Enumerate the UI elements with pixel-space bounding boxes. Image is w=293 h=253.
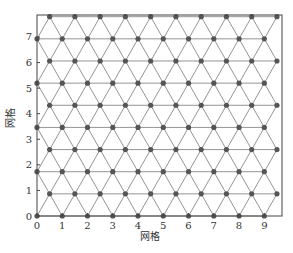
- mesh-node: [98, 147, 103, 152]
- mesh-node: [186, 125, 191, 130]
- y-tick-label: 1: [26, 185, 32, 196]
- mesh-edge: [125, 61, 138, 83]
- mesh-node: [173, 103, 178, 108]
- mesh-node: [274, 103, 279, 108]
- y-tick-label: 3: [26, 134, 32, 145]
- mesh-edge: [226, 17, 239, 39]
- mesh-edge: [75, 105, 88, 127]
- mesh-node: [211, 169, 216, 174]
- mesh-edge: [239, 105, 252, 127]
- mesh-node: [98, 103, 103, 108]
- mesh-edge: [88, 172, 101, 194]
- mesh-node: [85, 81, 90, 86]
- mesh-edge: [189, 172, 202, 194]
- mesh-node: [161, 125, 166, 130]
- mesh-edge: [151, 150, 164, 172]
- mesh-edge: [201, 105, 214, 127]
- mesh-edge: [37, 150, 50, 172]
- mesh-edge: [151, 61, 164, 83]
- y-axis-label: 网格: [4, 108, 16, 128]
- mesh-edge: [226, 172, 239, 194]
- mesh-edge: [88, 61, 101, 83]
- mesh-edge: [138, 61, 151, 83]
- mesh-node: [274, 58, 279, 63]
- mesh-edge: [37, 127, 50, 149]
- mesh-edge: [189, 39, 202, 61]
- y-tick-label: 6: [26, 57, 32, 68]
- mesh-node: [110, 81, 115, 86]
- mesh-edge: [100, 39, 113, 61]
- mesh-edge: [214, 105, 227, 127]
- mesh-edge: [176, 83, 189, 105]
- mesh-edge: [138, 83, 151, 105]
- mesh-edge: [214, 172, 227, 194]
- mesh-node: [211, 81, 216, 86]
- mesh-node: [85, 125, 90, 130]
- mesh-edge: [50, 61, 63, 83]
- mesh-edge: [239, 39, 252, 61]
- x-tick-label: 4: [135, 220, 141, 231]
- mesh-edge: [138, 105, 151, 127]
- mesh-node: [224, 103, 229, 108]
- mesh-node: [173, 58, 178, 63]
- x-tick-label: 6: [185, 220, 191, 231]
- mesh-edge: [50, 83, 63, 105]
- mesh-edge: [37, 17, 50, 39]
- mesh-edge: [214, 17, 227, 39]
- mesh-node: [47, 58, 52, 63]
- mesh-edge: [62, 39, 75, 61]
- mesh-edge: [252, 194, 265, 216]
- mesh-edge: [88, 127, 101, 149]
- mesh-node: [186, 36, 191, 41]
- mesh-edge: [100, 105, 113, 127]
- mesh-edge: [62, 172, 75, 194]
- mesh-edge: [201, 150, 214, 172]
- mesh-edge: [151, 39, 164, 61]
- mesh-node: [249, 191, 254, 196]
- mesh-edge: [113, 39, 126, 61]
- mesh-node: [123, 103, 128, 108]
- mesh-node: [224, 58, 229, 63]
- mesh-edge: [75, 17, 88, 39]
- mesh-edge: [88, 83, 101, 105]
- mesh-edge: [151, 17, 164, 39]
- mesh-edge: [100, 17, 113, 39]
- mesh-node: [186, 169, 191, 174]
- mesh-edge: [151, 172, 164, 194]
- mesh-edge: [88, 17, 101, 39]
- mesh-edge: [50, 17, 63, 39]
- mesh-edge: [100, 150, 113, 172]
- mesh-node: [199, 191, 204, 196]
- mesh-edge: [226, 61, 239, 83]
- mesh-edge: [163, 17, 176, 39]
- y-tick-label: 5: [26, 83, 32, 94]
- mesh-node: [199, 58, 204, 63]
- y-tick-label: 0: [26, 211, 32, 222]
- mesh-edge: [252, 105, 265, 127]
- mesh-node: [72, 103, 77, 108]
- mesh-edge: [189, 61, 202, 83]
- mesh-edge: [239, 150, 252, 172]
- mesh-node: [161, 36, 166, 41]
- mesh-edge: [37, 105, 50, 127]
- mesh-edge: [264, 83, 277, 105]
- mesh-edge: [226, 83, 239, 105]
- mesh-edge: [252, 39, 265, 61]
- mesh-node: [173, 191, 178, 196]
- mesh-node: [60, 125, 65, 130]
- mesh-edge: [50, 39, 63, 61]
- mesh-edge: [113, 17, 126, 39]
- mesh-edge: [189, 83, 202, 105]
- mesh-edge: [189, 17, 202, 39]
- mesh-edge: [201, 194, 214, 216]
- mesh-edge: [226, 194, 239, 216]
- mesh-edge: [226, 105, 239, 127]
- mesh-edge: [163, 39, 176, 61]
- mesh-edge: [163, 172, 176, 194]
- mesh-node: [123, 191, 128, 196]
- mesh-node: [249, 103, 254, 108]
- mesh-edge: [226, 39, 239, 61]
- mesh-edge: [138, 194, 151, 216]
- mesh-edge: [264, 150, 277, 172]
- mesh-node: [249, 147, 254, 152]
